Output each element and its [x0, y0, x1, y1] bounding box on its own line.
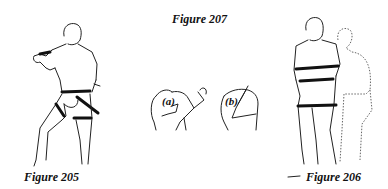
illustration-page: Figure 207 (a) (b) Figure 205 Figure 206 [0, 0, 388, 189]
figure-206-drawing [288, 18, 372, 178]
figure-207-label-b: (b) [225, 95, 238, 107]
figure-206-caption: Figure 206 [306, 170, 361, 185]
figure-205-drawing [33, 24, 100, 167]
line-drawings [0, 0, 388, 189]
figure-205-caption: Figure 205 [24, 170, 79, 185]
figure-207a-drawing [151, 88, 206, 130]
figure-207-label-a: (a) [162, 95, 175, 107]
figure-207-caption: Figure 207 [172, 12, 227, 27]
figure-207b-drawing [221, 86, 258, 130]
